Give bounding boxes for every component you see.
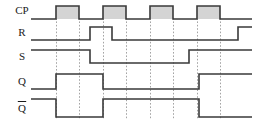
timing-diagram-canvas: CPRSQQ: [0, 0, 258, 128]
gridlines-group: [57, 18, 221, 120]
signal-label-Q: Q: [18, 75, 26, 87]
clock-pulse-shading-group: [56, 6, 220, 19]
clock-pulse-4: [197, 6, 220, 19]
timing-diagram-figure: CPRSQQ: [0, 0, 258, 128]
clock-pulse-2: [103, 6, 126, 19]
clock-pulse-3: [150, 6, 173, 19]
signal-label-S: S: [19, 50, 25, 62]
waveform-Qbar: [31, 99, 252, 117]
clock-pulse-1: [56, 6, 79, 19]
waveform-R: [31, 27, 252, 40]
signal-label-CP: CP: [15, 4, 28, 16]
signal-label-Qbar: Q: [18, 102, 26, 114]
signal-label-R: R: [18, 26, 26, 38]
waveform-Q: [31, 74, 252, 89]
waveform-S: [31, 50, 252, 63]
signal-labels-group: CPRSQQ: [15, 4, 28, 114]
waveform-group: [31, 6, 252, 117]
